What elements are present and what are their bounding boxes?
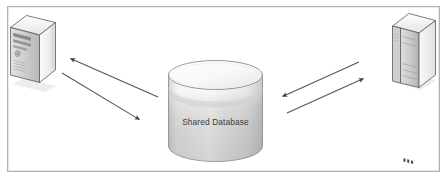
right-server-led-2 bbox=[407, 159, 409, 163]
node-shared-database[interactable]: Shared Database bbox=[169, 61, 263, 162]
left-application-power-led bbox=[17, 52, 19, 54]
diagram-canvas: Shared Database bbox=[0, 0, 447, 185]
right-server-led-1 bbox=[403, 158, 405, 162]
shared-database-diagram: Shared Database bbox=[0, 0, 447, 185]
shared-database-top bbox=[169, 61, 263, 90]
right-server-led-3 bbox=[411, 160, 413, 164]
shared-database-label: Shared Database bbox=[182, 117, 249, 127]
